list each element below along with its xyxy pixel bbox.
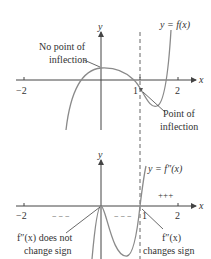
f-double-prime-label: y = f″(x): [147, 163, 183, 175]
leader-inflection: [143, 92, 165, 112]
sign-right: +++: [158, 190, 173, 200]
sign-middle: − − −: [114, 212, 132, 221]
annotation-does-not-change-line2: change sign: [24, 245, 72, 256]
top-tick-2: 2: [175, 85, 180, 96]
annotation-no-inflection-line2: inflection: [49, 54, 87, 65]
bottom-y-axis-label: y: [97, 149, 103, 160]
top-y-axis-label: y: [97, 21, 103, 32]
bottom-tick-neg2: −2: [16, 210, 27, 221]
annotation-no-inflection-line1: No point of: [39, 41, 86, 52]
top-graph: y x −2 1 2 y = f(x) No point of inflecti…: [16, 19, 204, 132]
sign-left: − − −: [52, 212, 70, 221]
top-x-axis-label: x: [198, 74, 204, 85]
top-tick-neg2: −2: [16, 85, 27, 96]
f-curve-label: y = f(x): [159, 19, 191, 31]
inflection-diagram: y x −2 1 2 y = f(x) No point of inflecti…: [0, 0, 211, 259]
annotation-inflection-line1: Point of: [163, 108, 196, 119]
top-tick-1: 1: [133, 85, 138, 96]
bottom-tick-2: 2: [175, 210, 180, 221]
bottom-graph: y x −2 1 2 y = f″(x) − − − − − − +++ f″(…: [16, 149, 204, 259]
annotation-changes-sign-line2: changes sign: [143, 245, 194, 256]
bottom-x-axis-label: x: [198, 200, 204, 211]
annotation-does-not-change-line1: f″(x) does not: [17, 232, 72, 244]
annotation-changes-sign-line1: f″(x): [162, 232, 181, 244]
annotation-inflection-line2: inflection: [160, 121, 198, 132]
